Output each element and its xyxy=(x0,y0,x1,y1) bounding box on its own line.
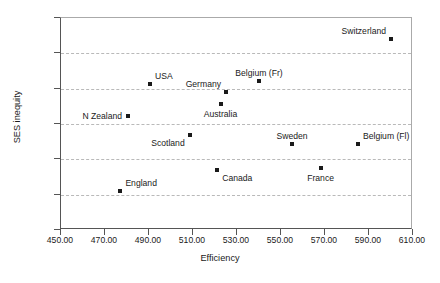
data-point-marker xyxy=(118,189,122,193)
gridline xyxy=(61,195,411,196)
data-point-label: England xyxy=(125,179,157,188)
x-tick-label: 610.00 xyxy=(382,236,440,245)
gridline xyxy=(61,124,411,125)
gridline xyxy=(61,159,411,160)
y-tick-mark xyxy=(54,158,60,159)
y-tick-mark xyxy=(54,194,60,195)
data-point-marker xyxy=(257,79,261,83)
gridline xyxy=(61,53,411,54)
data-point-label: Australia xyxy=(161,110,281,119)
data-point-label: N Zealand xyxy=(61,112,122,121)
data-point-marker xyxy=(219,102,223,106)
y-tick-mark xyxy=(54,88,60,89)
y-axis-title: SES inequity xyxy=(12,57,22,177)
data-point-label: Belgium (Fr) xyxy=(199,69,319,78)
data-point-label: Germany xyxy=(61,80,221,89)
data-point-marker xyxy=(290,142,294,146)
data-point-marker xyxy=(319,166,323,170)
data-point-marker xyxy=(188,133,192,137)
scatter-chart-figure: EnglandN ZealandUSAScotlandCanadaAustral… xyxy=(0,0,440,283)
data-point-label: Sweden xyxy=(232,132,352,141)
plot-area: EnglandN ZealandUSAScotlandCanadaAustral… xyxy=(60,17,412,229)
data-point-marker xyxy=(224,90,228,94)
y-tick-mark xyxy=(54,123,60,124)
x-axis-title: Efficiency xyxy=(0,253,440,263)
data-point-label: Canada xyxy=(222,174,252,183)
y-tick-mark xyxy=(54,52,60,53)
data-point-label: Scotland xyxy=(61,139,185,148)
data-point-marker xyxy=(126,114,130,118)
data-point-label: France xyxy=(261,174,381,183)
data-point-marker xyxy=(215,168,219,172)
data-point-label: Belgium (Fl) xyxy=(363,132,409,141)
data-point-marker xyxy=(356,142,360,146)
data-point-marker xyxy=(389,37,393,41)
y-tick-mark xyxy=(54,17,60,18)
data-point-label: Switzerland xyxy=(61,27,386,36)
